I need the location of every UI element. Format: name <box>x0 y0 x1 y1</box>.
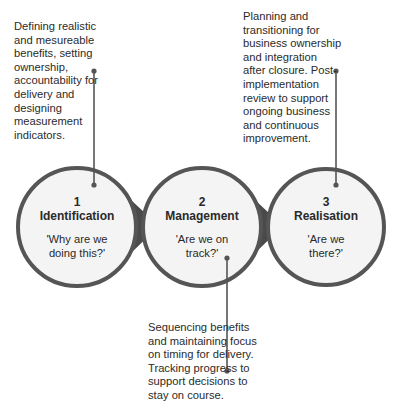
stage-3-label: 3 Realisation 'Are we there?' <box>271 196 381 260</box>
stage-question: 'Why are we doing this?' <box>22 233 132 260</box>
stage-3-description: Planning and transitioning for business … <box>243 10 353 146</box>
stage-number: 2 <box>147 196 257 209</box>
stage-question: 'Are we on track?' <box>147 233 257 260</box>
stage-2-label: 2 Management 'Are we on track?' <box>147 196 257 260</box>
stage-question: 'Are we there?' <box>271 233 381 260</box>
stage-name: Identification <box>22 209 132 223</box>
stage-1-label: 1 Identification 'Why are we doing this?… <box>22 196 132 260</box>
stage-number: 1 <box>22 196 132 209</box>
stage-name: Realisation <box>271 209 381 223</box>
stage-name: Management <box>147 209 257 223</box>
stage-1-description: Defining realistic and mesureable benefi… <box>14 20 114 142</box>
stage-number: 3 <box>271 196 381 209</box>
stage-2-description: Sequencing benefits and maintaining focu… <box>148 321 268 403</box>
